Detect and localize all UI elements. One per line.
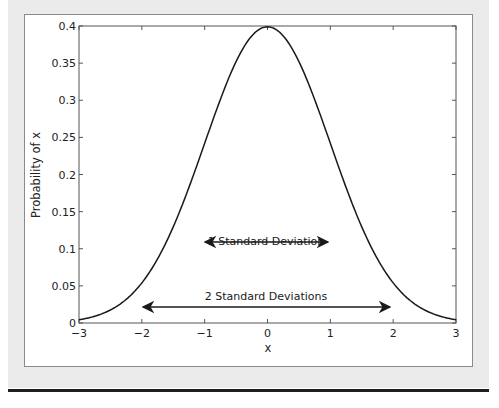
x-tick-label: 2 xyxy=(390,327,397,340)
annotation-2sd-label: 2 Standard Deviations xyxy=(205,290,328,303)
y-tick-label: 0.4 xyxy=(59,20,77,33)
y-tick-label: 0.05 xyxy=(52,280,77,293)
x-tick-label: 0 xyxy=(264,327,271,340)
x-tick-label: −3 xyxy=(71,327,87,340)
y-axis-title: Probability of x xyxy=(29,132,43,218)
y-tick-label: 0.2 xyxy=(59,169,77,182)
x-tick-label: −2 xyxy=(134,327,150,340)
y-tick-label: 0.25 xyxy=(52,131,77,144)
x-tick-label: 3 xyxy=(453,327,460,340)
y-tick-label: 0.3 xyxy=(59,94,77,107)
y-tick-label: 0.1 xyxy=(59,243,77,256)
plot-area xyxy=(79,26,456,323)
chart: 00.050.10.150.20.250.30.350.4 −3−2−10123… xyxy=(0,0,499,408)
x-axis-title: x xyxy=(265,341,272,355)
x-tick-label: −1 xyxy=(197,327,213,340)
y-tick-label: 0.35 xyxy=(52,57,77,70)
y-tick-label: 0.15 xyxy=(52,206,77,219)
x-tick-label: 1 xyxy=(327,327,334,340)
